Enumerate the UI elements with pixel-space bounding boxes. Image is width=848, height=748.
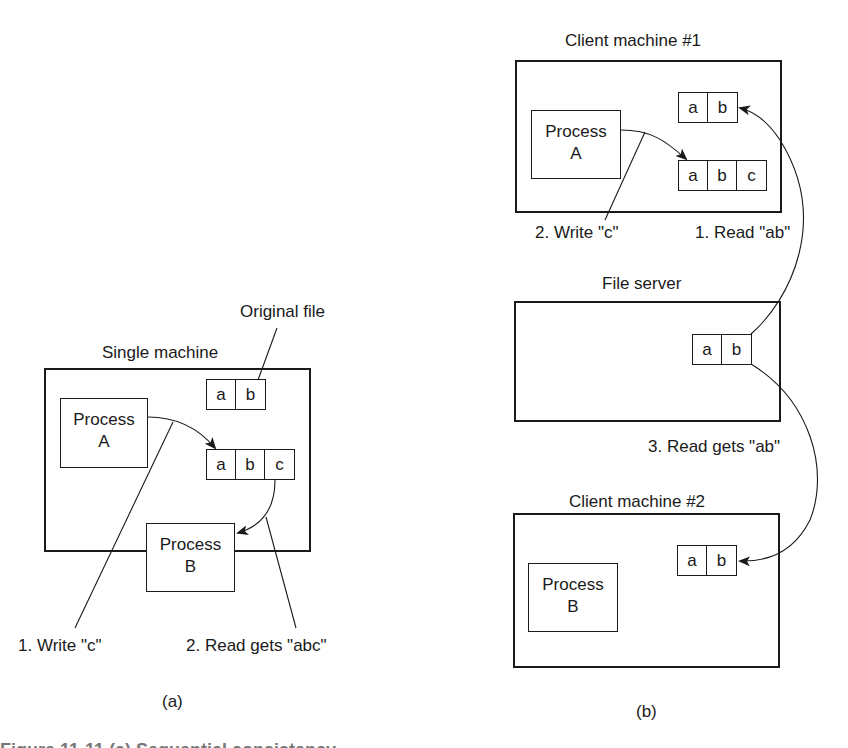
file-cell: a (207, 450, 236, 479)
original-file: a b (206, 379, 266, 410)
client-2-label: Client machine #2 (569, 493, 705, 510)
single-machine-label: Single machine (102, 344, 218, 361)
file-server-label: File server (602, 275, 681, 292)
process-a-id: A (61, 431, 147, 453)
process-b-box: Process B (146, 523, 235, 592)
file-cell: a (693, 335, 722, 364)
file-cell: a (679, 93, 708, 122)
client-1-label: Client machine #1 (565, 32, 701, 49)
step-2-label: 2. Read gets "abc" (186, 637, 327, 654)
file-cell: b (708, 93, 737, 122)
figure-caption-fragment: Figure 11-11 (a) Sequential consistency (0, 740, 848, 748)
client-1-cached-file: a b (678, 92, 738, 123)
step-1-label: 1. Write "c" (18, 637, 102, 654)
process-a-label: Process (61, 409, 147, 431)
original-file-label: Original file (240, 303, 325, 320)
client-1-process-box: Process A (531, 110, 621, 179)
process-a-id: A (532, 143, 620, 165)
process-a-box: Process A (60, 398, 148, 468)
file-cell: b (236, 450, 265, 479)
file-cell: b (707, 546, 736, 575)
file-cell: b (708, 161, 737, 190)
file-cell: c (265, 450, 294, 479)
process-b-label: Process (147, 534, 234, 556)
client-1-modified-file: a b c (678, 160, 767, 191)
step-1-label: 1. Read "ab" (695, 224, 790, 241)
file-cell: a (678, 546, 707, 575)
process-b-id: B (529, 596, 617, 618)
process-b-id: B (147, 556, 234, 578)
file-cell: b (236, 380, 265, 409)
step-3-label: 3. Read gets "ab" (648, 438, 780, 455)
panel-a-caption: (a) (162, 693, 183, 710)
panel-b-caption: (b) (636, 703, 657, 720)
file-cell: a (207, 380, 236, 409)
file-cell: c (737, 161, 766, 190)
file-cell: b (722, 335, 751, 364)
process-b-label: Process (529, 574, 617, 596)
process-a-label: Process (532, 121, 620, 143)
file-cell: a (679, 161, 708, 190)
modified-file: a b c (206, 449, 295, 480)
step-2-label: 2. Write "c" (535, 224, 619, 241)
client-2-process-box: Process B (528, 563, 618, 632)
server-file: a b (692, 334, 752, 365)
client-2-cached-file: a b (677, 545, 737, 576)
